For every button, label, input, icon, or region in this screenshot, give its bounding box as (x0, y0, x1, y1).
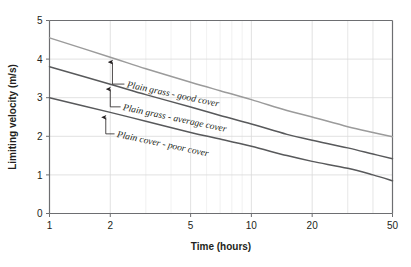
y-axis-tick-label: 3 (37, 92, 43, 103)
x-axis-tick-label: 2 (107, 220, 113, 231)
line-chart: 012345125102050Time (hours)Limiting velo… (0, 0, 411, 267)
x-axis-tick-label: 5 (188, 220, 194, 231)
y-axis-tick-label: 2 (37, 131, 43, 142)
x-axis-tick-label: 1 (47, 220, 53, 231)
x-axis-tick-label: 10 (246, 220, 258, 231)
x-axis-tick-label: 50 (387, 220, 399, 231)
x-axis-tick-label: 20 (307, 220, 319, 231)
chart-container: 012345125102050Time (hours)Limiting velo… (0, 0, 411, 267)
y-axis-title: Limiting velocity (m/s) (7, 64, 18, 170)
chart-background (0, 0, 411, 267)
x-axis-title: Time (hours) (191, 241, 251, 252)
y-axis-tick-label: 5 (37, 15, 43, 26)
y-axis-tick-label: 0 (37, 208, 43, 219)
y-axis-tick-label: 4 (37, 54, 43, 65)
y-axis-tick-label: 1 (37, 170, 43, 181)
